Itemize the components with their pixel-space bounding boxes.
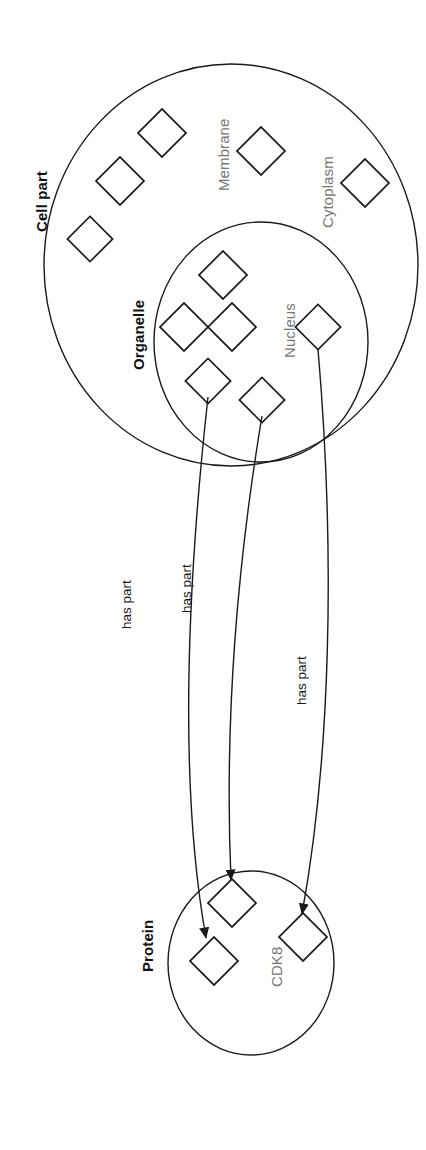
edge-has-part-1 [189, 397, 208, 938]
cell-part-diamond-cytoplasm [341, 159, 389, 207]
protein-diamond-b [208, 879, 256, 927]
organelle-diamond-3 [208, 303, 256, 351]
protein-diamond-c [279, 913, 327, 961]
organelle-diamond-2 [160, 303, 208, 351]
group-label-protein: Protein [140, 920, 155, 972]
edge-label-has-part-2: has part [180, 564, 194, 613]
cell-part-diamond-3 [67, 216, 112, 261]
edge-has-part-2 [229, 416, 262, 880]
node-label-cytoplasm: Cytoplasm [320, 156, 335, 228]
cell-part-diamond-2 [96, 157, 144, 205]
protein-diamond-a [190, 937, 238, 985]
group-label-organelle: Organelle [131, 300, 146, 370]
cell-part-diamond-1 [138, 109, 186, 157]
node-label-nucleus: Nucleus [282, 303, 297, 358]
group-label-cell-part: Cell part [34, 171, 49, 232]
diagram-canvas: Cell part Organelle Membrane Cytoplasm N… [0, 0, 426, 1150]
edge-label-has-part-1: has part [120, 580, 134, 629]
node-label-cdk8: CDK8 [269, 947, 284, 987]
organelle-diamond-nucleus [295, 304, 340, 349]
organelle-diamond-a [185, 358, 230, 403]
edge-label-has-part-3: has part [295, 656, 309, 705]
organelle-diamond-1 [199, 251, 247, 299]
edge-has-part-3 [302, 349, 328, 914]
node-label-membrane: Membrane [216, 119, 231, 192]
diagram-svg [0, 0, 426, 1150]
organelle-diamond-b [239, 377, 284, 422]
cell-part-diamond-membrane [237, 127, 285, 175]
